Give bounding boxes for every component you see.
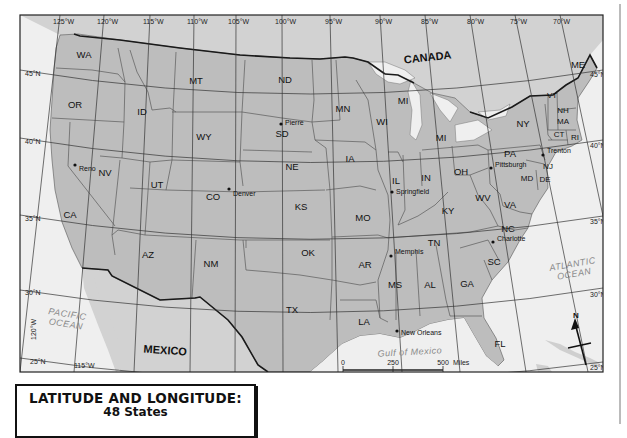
graticule-label: 100°W [275,18,296,25]
state-label-ne: NE [285,161,298,172]
state-label-pa: PA [504,148,517,159]
graticule-label: 75°W [583,392,601,399]
state-label-nj: NJ [543,162,553,171]
city-label: Trenton [547,147,571,154]
city-dot-icon [73,163,76,166]
state-label-al: AL [424,279,436,290]
state-label-mt: MT [189,75,203,86]
graticule-label: 105°W [205,373,226,380]
graticule-label: 75°W [510,18,528,25]
graticule-label: 110°W [187,18,208,25]
graticule-label: 70°W [610,185,617,203]
state-label-az: AZ [142,249,154,260]
city-dot-icon [227,187,230,190]
scale-km-unit: Kilometers [451,378,485,385]
scale-miles-unit: Miles [453,359,470,366]
state-label-nc: NC [501,223,515,234]
graticule-label: 95°W [330,392,348,399]
state-label-nd: ND [278,74,292,85]
scale-km-500: 500 [402,378,414,385]
graticule-label: 105°W [228,18,249,25]
scale-km-250: 250 [370,378,382,385]
state-label-id: ID [137,106,147,117]
state-label-in: IN [421,172,431,183]
state-label-oh: OH [454,166,468,177]
scale-miles-500: 500 [437,359,449,366]
state-label-ca: CA [63,209,77,220]
map-subtitle: 48 States [17,405,254,419]
scale-miles-250: 250 [387,359,399,366]
graticule-label: 115°W [143,18,164,25]
state-label-ri: RI [571,133,579,142]
city-label: Pittsburgh [495,161,527,169]
state-label-sd: SD [275,128,288,139]
state-label-ma: MA [557,117,570,126]
city-label: Reno [79,165,96,172]
state-label-de: DE [539,175,550,184]
graticule-label: 110°W [140,373,161,380]
graticule-label: 30°N [25,289,41,296]
state-label-ms: MS [388,279,402,290]
scale-km-0: 0 [341,378,345,385]
graticule-label: 80°W [520,392,538,399]
state-label-or: OR [68,99,82,110]
state-label-tx: TX [286,304,299,315]
state-label-mi: MI [398,95,409,106]
graticule-label: 120°W [97,18,118,25]
graticule-label: 95°W [325,18,343,25]
state-label-nh: NH [557,106,569,115]
state-label-tn: TN [428,237,441,248]
state-label-wi: WI [376,116,388,127]
city-dot-icon [541,153,544,156]
state-label-vt: VT [547,91,557,100]
state-label-ky: KY [442,205,455,216]
graticule-label: 70°W [553,18,571,25]
graticule-label: 120°W [30,319,37,340]
state-label-nm: NM [204,258,219,269]
city-dot-icon [491,240,494,243]
city-dot-icon [395,329,398,332]
graticule-label: 115°W [74,362,95,369]
graticule-label: 40°N [25,138,41,145]
state-label-co: CO [206,191,220,202]
graticule-label: 90°W [397,392,415,399]
city-label: Denver [233,190,256,197]
graticule-label: 85°W [456,385,474,392]
city-dot-icon [390,190,393,193]
state-label-ar: AR [358,259,371,270]
scale-miles-0: 0 [341,359,345,366]
city-label: Charlotte [497,235,526,242]
state-label-ny: NY [516,118,530,129]
city-dot-icon [279,122,282,125]
state-label-wa: WA [77,49,93,60]
city-dot-icon [389,254,392,257]
graticule-label: 80°W [467,18,485,25]
state-label-mn: MN [336,103,351,114]
city-label: Springfield [396,188,429,196]
state-label-mo: MO [355,212,370,223]
graticule-label: 100°W [268,373,289,380]
compass-north-label: N [573,311,579,320]
state-label-la: LA [358,316,370,327]
graticule-label: 45°N [25,70,41,77]
state-label-md: MD [521,174,534,183]
city-label: Memphis [395,248,424,256]
state-label-ia: IA [346,153,356,164]
graticule-label: 90°W [375,18,393,25]
graticule-label: 125°W [53,18,74,25]
graticule-label: 35°N [25,215,41,222]
graticule-label: 85°W [421,18,439,25]
state-label-ut: UT [151,179,164,190]
state-label-ct: CT [554,130,565,139]
state-label-wv: WV [475,192,491,203]
state-label-me: ME [571,59,585,70]
map-title: LATITUDE AND LONGITUDE: [17,390,254,406]
page-edge-rule [619,4,621,424]
graticule-label: 25°N [30,358,46,365]
state-label-va: VA [504,199,517,210]
state-label-nv: NV [98,167,112,178]
state-label-fl: FL [494,338,505,349]
city-label: Pierre [285,119,304,126]
state-label-sc: SC [487,256,500,267]
